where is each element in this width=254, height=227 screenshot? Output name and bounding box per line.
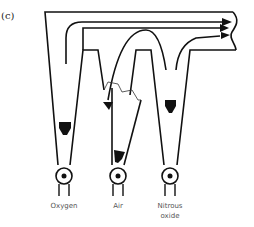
arrow-head-second xyxy=(220,24,229,32)
label-oxygen: Oxygen xyxy=(44,202,84,211)
arrow-head-right xyxy=(221,32,230,39)
label-air: Air xyxy=(100,202,136,211)
nitrous-float-icon xyxy=(165,100,176,113)
air-float-icon xyxy=(114,150,125,163)
flow-curve-down xyxy=(108,30,166,100)
nitrous-left-wall xyxy=(130,50,164,165)
flowmeter-diagram xyxy=(0,0,254,227)
label-nitrous: Nitrous xyxy=(150,202,190,211)
manifold-bottom-line xyxy=(177,50,236,165)
manifold-broken-end xyxy=(231,12,237,50)
flow-curve-right xyxy=(176,36,220,70)
oxygen-right-wall xyxy=(70,50,104,165)
air-right-wall xyxy=(124,100,141,165)
oxygen-float-icon xyxy=(59,122,71,135)
label-oxide: oxide xyxy=(150,212,190,221)
arrow-head-top xyxy=(222,18,232,26)
